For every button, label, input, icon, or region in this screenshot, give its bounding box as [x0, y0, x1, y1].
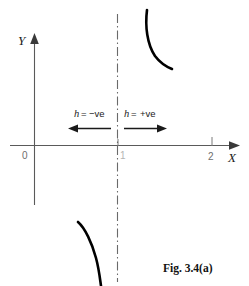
h-negative-equals: =	[81, 108, 87, 119]
x-axis-arrowhead	[229, 141, 240, 150]
h-negative-value: −ve	[89, 108, 105, 119]
origin-label: 0	[22, 150, 28, 161]
annotation-h-negative: h = −ve	[68, 108, 111, 132]
graph-canvas: X Y 0 1 2 h = −ve	[0, 0, 249, 286]
figure-caption: Fig. 3.4(a)	[163, 262, 213, 275]
curve-upper-right-branch	[146, 10, 172, 69]
y-axis-arrowhead	[30, 33, 39, 44]
y-axis-group: Y	[18, 33, 39, 205]
y-axis-label: Y	[18, 33, 27, 48]
figure-container: X Y 0 1 2 h = −ve	[0, 0, 249, 286]
h-positive-equals: =	[131, 108, 137, 119]
h-positive-arrowhead	[157, 125, 167, 133]
x-axis-label: X	[227, 150, 237, 165]
h-positive-variable: h	[124, 108, 129, 119]
h-negative-arrowhead	[68, 125, 78, 133]
x-tick-1: 1	[118, 139, 126, 161]
x-tick-2-label: 2	[208, 151, 214, 162]
h-negative-variable: h	[74, 108, 79, 119]
curve-lower-left-branch	[78, 222, 101, 286]
h-positive-value: +ve	[140, 108, 156, 119]
x-tick-2: 2	[208, 137, 214, 162]
x-tick-1-label: 1	[120, 150, 126, 161]
annotation-h-positive: h = +ve	[124, 108, 167, 132]
